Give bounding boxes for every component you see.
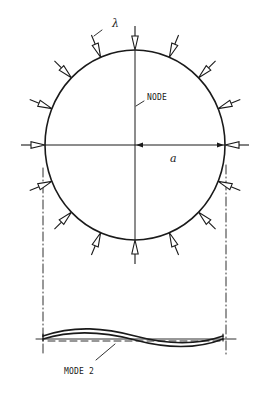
load-arrow-icon (166, 232, 181, 257)
load-arrow-icon (166, 34, 181, 59)
load-arrow-icon (88, 232, 103, 257)
lambda-leader-line (94, 30, 102, 36)
load-arrow-icon (88, 34, 103, 59)
node-label: NODE (147, 94, 167, 102)
load-arrow-icon (217, 96, 242, 111)
ring-diagram (0, 0, 270, 395)
load-arrow-icon (52, 210, 73, 231)
node-leader-line (136, 101, 144, 106)
load-arrow-icon (225, 142, 249, 148)
load-arrow-icon (132, 26, 138, 50)
load-arrow-icon (132, 240, 138, 264)
load-arrow-icon (29, 178, 54, 193)
load-arrow-icon (29, 96, 54, 111)
load-arrow-icon (52, 59, 73, 80)
load-arrow-icon (21, 142, 45, 148)
radius-arrow-end-icon (217, 143, 224, 148)
radius-label: a (170, 153, 177, 164)
load-arrow-icon (196, 59, 217, 80)
load-symbol-label: λ (112, 18, 119, 29)
mode-leader-line (96, 344, 115, 360)
load-arrow-icon (217, 178, 242, 193)
load-arrow-icon (196, 210, 217, 231)
radius-arrow-start-icon (136, 143, 143, 148)
mode-label: MODE 2 (64, 368, 94, 376)
